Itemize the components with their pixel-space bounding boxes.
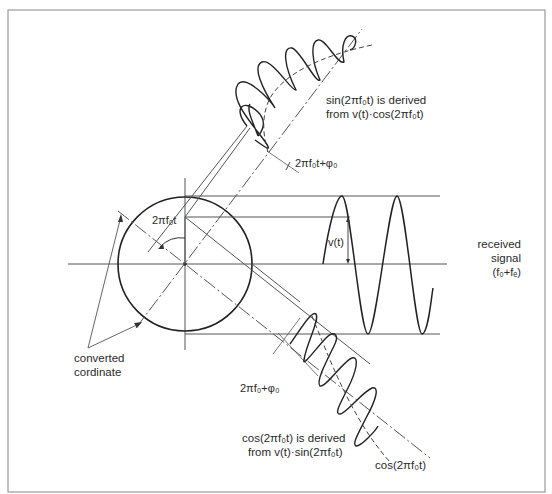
cos-derived-label-line1: cos(2πf₀t) is derived <box>242 431 345 445</box>
vt-arrow-head-bottom <box>346 259 350 264</box>
received-label-line2: signal <box>430 251 521 265</box>
lower-projected-wave <box>290 313 378 446</box>
upper-phase-label: 2πf₀t+φ₀ <box>295 156 338 170</box>
vt-label: v(t) <box>328 235 344 249</box>
sin-derived-label-line2: from v(t)·cos(2πf₀t) <box>326 107 424 121</box>
angle-label: 2πf₀t <box>152 213 176 227</box>
diagram-canvas: sin(2πf₀t) is derived from v(t)·cos(2πf₀… <box>0 0 552 494</box>
lower-projection-b <box>252 264 300 302</box>
sin-derived-label-line1: sin(2πf₀t) is derived <box>326 93 426 107</box>
upper-projection-b <box>148 126 247 252</box>
cos-reference-label: cos(2πf₀t) <box>375 458 426 472</box>
received-label-line1: received <box>430 237 521 251</box>
cos-derived-label-line2: from v(t)·sin(2πf₀t) <box>248 445 342 459</box>
converted-arrow-up-head <box>118 214 123 222</box>
lower-phase-label: 2πf₀+φ₀ <box>240 381 279 395</box>
upper-projection-a <box>185 128 250 217</box>
upper-projected-wave <box>236 36 356 148</box>
angle-arc <box>160 238 185 247</box>
vt-arrow-head-top <box>346 217 350 222</box>
converted-arrow-right <box>88 323 141 348</box>
converted-arrow-right-head <box>134 322 142 328</box>
converted-arrow-up <box>88 216 121 348</box>
converted-label-line1: converted <box>74 351 125 365</box>
converted-label-line2: cordinate <box>74 365 121 379</box>
received-label-line3: (f₀+fₑ) <box>430 265 521 279</box>
